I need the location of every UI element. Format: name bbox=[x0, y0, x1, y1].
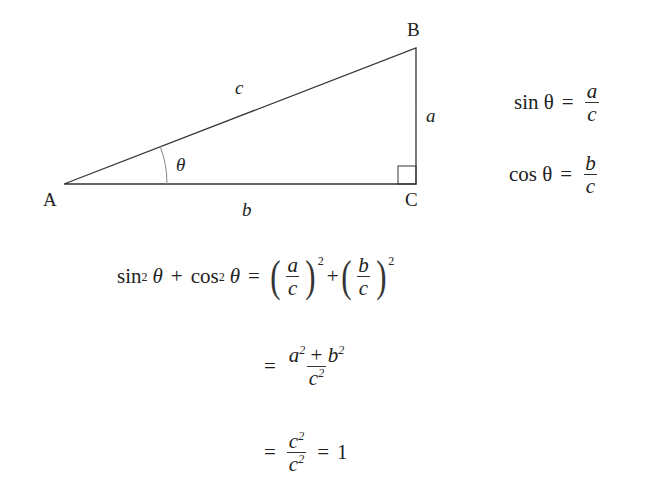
cos-text: cos bbox=[191, 264, 219, 289]
plus-sign: + bbox=[171, 264, 183, 289]
sin-lhs: sin θ bbox=[514, 90, 554, 115]
cos-definition: cos θ = b c bbox=[509, 152, 601, 197]
fraction-a-over-c: a c bbox=[585, 80, 600, 125]
right-paren: ) bbox=[376, 255, 386, 299]
vertex-label-b: B bbox=[407, 20, 420, 39]
theta: θ bbox=[153, 264, 163, 289]
denominator: c2 bbox=[287, 452, 306, 475]
numerator: a bbox=[585, 80, 600, 102]
sin-text: sin bbox=[117, 264, 142, 289]
left-paren: ( bbox=[270, 255, 280, 299]
equals-sign: = bbox=[248, 264, 260, 289]
triangle bbox=[64, 48, 416, 184]
numerator: a bbox=[286, 254, 301, 276]
result-value: 1 bbox=[337, 440, 348, 465]
derivation-line-2: = a2 + b2 c2 bbox=[264, 344, 349, 389]
theta: θ bbox=[230, 264, 240, 289]
numerator: a2 + b2 bbox=[287, 344, 346, 366]
side-label-b: b bbox=[242, 200, 252, 219]
fraction-b-over-c: b c bbox=[583, 152, 598, 197]
derivation-line-3: = c2 c2 = 1 bbox=[264, 430, 348, 475]
denominator: c bbox=[584, 174, 597, 197]
denominator: c bbox=[286, 276, 299, 299]
cos-lhs: cos θ bbox=[509, 162, 552, 187]
right-paren: ) bbox=[305, 255, 315, 299]
numerator: b bbox=[356, 254, 371, 276]
vertex-label-a: A bbox=[43, 190, 57, 209]
vertex-label-c: C bbox=[405, 190, 418, 209]
fraction-a-over-c: a c bbox=[286, 254, 301, 299]
left-paren: ( bbox=[341, 255, 351, 299]
fraction-sum-over-c-squared: a2 + b2 c2 bbox=[287, 344, 346, 389]
sin-definition: sin θ = a c bbox=[514, 80, 602, 125]
equals-sign: = bbox=[264, 440, 276, 465]
plus-sign: + bbox=[327, 264, 339, 289]
derivation-line-1: sin2 θ + cos2 θ = ( a c )2 + ( b c )2 bbox=[117, 254, 394, 299]
equals-sign: = bbox=[560, 162, 572, 187]
equals-sign: = bbox=[562, 90, 574, 115]
fraction-b-over-c: b c bbox=[356, 254, 371, 299]
fraction-c-squared-over-c-squared: c2 c2 bbox=[287, 430, 306, 475]
angle-label-theta: θ bbox=[176, 155, 185, 174]
angle-arc bbox=[160, 146, 167, 184]
side-label-c: c bbox=[235, 78, 243, 97]
numerator: c2 bbox=[287, 430, 306, 452]
denominator: c bbox=[585, 102, 598, 125]
denominator: c2 bbox=[307, 366, 326, 389]
equals-sign: = bbox=[264, 354, 276, 379]
side-label-a: a bbox=[426, 106, 436, 125]
numerator: b bbox=[583, 152, 598, 174]
denominator: c bbox=[357, 276, 370, 299]
equals-sign: = bbox=[317, 440, 329, 465]
right-angle-marker bbox=[398, 166, 416, 184]
